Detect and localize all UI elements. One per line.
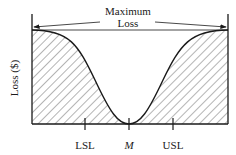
- arrow-right: [155, 22, 226, 27]
- arrow-left: [34, 22, 100, 27]
- y-axis-label: Loss ($): [8, 59, 21, 96]
- loss-function-diagram: Maximum Loss Loss ($) LSL M USL: [0, 0, 236, 155]
- title-line-2: Loss: [118, 17, 139, 29]
- loss-area: [32, 30, 228, 124]
- tick-label-m: M: [123, 139, 134, 151]
- tick-label-lsl: LSL: [75, 139, 95, 151]
- title-line-1: Maximum: [105, 5, 151, 17]
- tick-label-usl: USL: [163, 139, 184, 151]
